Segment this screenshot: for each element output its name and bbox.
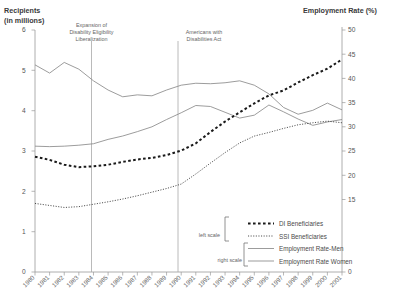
x-label-1998: 1998: [284, 273, 299, 288]
x-label-1988: 1988: [138, 273, 153, 288]
legend-label-di: DI Beneficiaries: [279, 220, 323, 227]
x-label-1990: 1990: [167, 273, 182, 288]
annotation-expansion-line1: Expansion of: [76, 22, 108, 28]
right-tick-40: 40: [348, 75, 356, 82]
annotation-americans-with-disabilities-act: Americans with Disabilities Act: [186, 29, 223, 42]
legend-left-scale-bracket: [225, 217, 229, 241]
legend-label-women: Employment Rate Women: [279, 258, 353, 266]
left-tick-5: 5: [22, 67, 26, 74]
right-tick-35: 35: [348, 99, 356, 106]
x-label-2001: 2001: [328, 273, 343, 288]
right-axis-title: Employment Rate (%): [303, 6, 377, 15]
x-label-2000: 2000: [313, 273, 328, 288]
x-label-1992: 1992: [196, 273, 211, 288]
right-tick-30: 30: [348, 123, 356, 130]
x-label-1991: 1991: [182, 273, 197, 288]
series-employment-rate-women: [35, 105, 342, 147]
annotation-ada-line1: Americans with: [186, 29, 223, 35]
x-label-1989: 1989: [153, 273, 168, 288]
annotation-expansion-line3: Liberalization: [76, 36, 108, 42]
x-label-1997: 1997: [270, 273, 285, 288]
left-tick-4: 4: [22, 107, 26, 114]
chart-legend: DI Beneficiaries SSI Beneficiaries Emplo…: [199, 217, 353, 266]
chart-container: Recipients (in millions) Employment Rate…: [0, 0, 399, 307]
right-tick-15: 15: [348, 196, 356, 203]
x-label-1999: 1999: [299, 273, 314, 288]
right-tick-20: 20: [348, 172, 356, 179]
annotation-expansion-of-disability-eligibility: Expansion of Disability Eligibility Libe…: [69, 22, 113, 42]
right-tick-45: 45: [348, 51, 356, 58]
left-axis-ticks: 0 1 2 3 4 5 6: [22, 26, 35, 275]
employment-and-beneficiaries-chart: Recipients (in millions) Employment Rate…: [0, 0, 399, 307]
x-label-1986: 1986: [109, 273, 124, 288]
x-label-1980: 1980: [21, 273, 36, 288]
x-label-1994: 1994: [226, 273, 241, 288]
left-tick-1: 1: [22, 228, 26, 235]
left-tick-3: 3: [22, 147, 26, 154]
series-ssi-beneficiaries: [35, 121, 342, 207]
legend-left-scale-label: left scale: [199, 232, 220, 238]
annotation-expansion-line2: Disability Eligibility: [69, 29, 113, 35]
x-label-1983: 1983: [65, 273, 80, 288]
x-label-1996: 1996: [255, 273, 270, 288]
right-tick-50: 50: [348, 26, 356, 33]
x-label-1985: 1985: [94, 273, 109, 288]
right-tick-25: 25: [348, 147, 356, 154]
x-axis-labels: 1980198119821983198419851986198719881989…: [21, 273, 343, 288]
x-label-1993: 1993: [211, 273, 226, 288]
left-tick-0: 0: [22, 268, 26, 275]
annotation-ada-line2: Disabilities Act: [187, 36, 222, 42]
x-axis-ticks: [35, 272, 342, 276]
legend-label-ssi: SSI Beneficiaries: [279, 233, 327, 240]
series-employment-rate-men: [35, 62, 342, 114]
x-label-1982: 1982: [50, 273, 65, 288]
x-label-1981: 1981: [36, 273, 51, 288]
legend-right-scale-label: right scale: [217, 257, 242, 263]
x-label-1987: 1987: [123, 273, 138, 288]
x-label-1995: 1995: [240, 273, 255, 288]
left-tick-6: 6: [22, 26, 26, 33]
left-tick-2: 2: [22, 188, 26, 195]
left-axis-title-line1: Recipients: [4, 6, 40, 15]
legend-label-men: Employment Rate-Men: [279, 245, 344, 253]
left-axis-title-line2: (in millions): [4, 16, 45, 25]
legend-right-scale-bracket: [244, 243, 248, 266]
right-axis-ticks: 0 15 20 25 30 35 40 45 50: [342, 26, 356, 275]
right-tick-0: 0: [348, 268, 352, 275]
x-label-1984: 1984: [79, 273, 94, 288]
